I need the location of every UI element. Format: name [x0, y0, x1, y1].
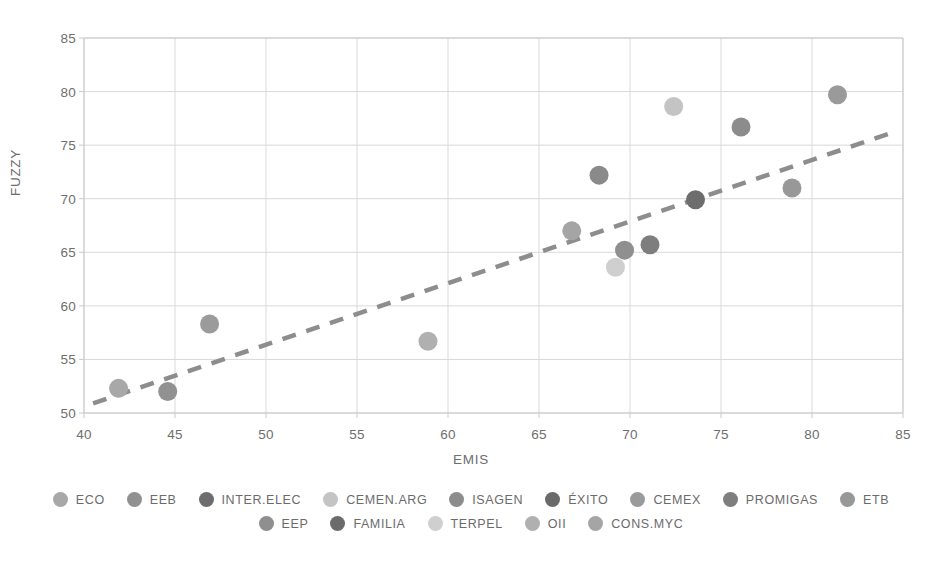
- legend-swatch-circle-icon: [449, 492, 464, 507]
- legend-item-label: OII: [548, 517, 566, 531]
- legend-swatch-circle-icon: [259, 516, 274, 531]
- data-point[interactable]: [109, 379, 128, 398]
- data-point[interactable]: [418, 332, 437, 351]
- legend-item[interactable]: ECO: [53, 492, 105, 507]
- legend-row-1: ECOEEBINTER.ELECCEMEN.ARGISAGENÉXITOCEME…: [0, 492, 942, 507]
- data-point[interactable]: [664, 97, 683, 116]
- legend-item[interactable]: EEB: [127, 492, 177, 507]
- scatter-chart: 505560657075808540455055606570758085 FUZ…: [0, 0, 942, 586]
- legend-item-label: ISAGEN: [472, 493, 523, 507]
- legend-item-label: CEMEN.ARG: [346, 493, 427, 507]
- legend-item-label: CEMEX: [653, 493, 700, 507]
- legend-item-label: FAMILIA: [353, 517, 405, 531]
- x-tick-label: 85: [895, 427, 910, 442]
- data-point[interactable]: [686, 190, 705, 209]
- data-point[interactable]: [158, 382, 177, 401]
- trend-line: [93, 133, 890, 403]
- legend-row-2: EEPFAMILIATERPELOIICONS.MYC: [0, 516, 942, 531]
- y-tick-label: 50: [32, 406, 76, 421]
- x-tick-label: 45: [167, 427, 182, 442]
- legend-item-label: EEP: [282, 517, 309, 531]
- legend-item-label: EEB: [150, 493, 177, 507]
- x-axis-title: EMIS: [0, 452, 942, 467]
- x-tick-label: 70: [622, 427, 637, 442]
- legend-swatch-circle-icon: [127, 492, 142, 507]
- legend-swatch-circle-icon: [323, 492, 338, 507]
- data-point[interactable]: [782, 179, 801, 198]
- data-point[interactable]: [590, 166, 609, 185]
- legend-item-label: PROMIGAS: [746, 493, 818, 507]
- x-tick-label: 40: [76, 427, 91, 442]
- y-tick-label: 75: [32, 138, 76, 153]
- x-tick-label: 65: [531, 427, 546, 442]
- legend-swatch-circle-icon: [330, 516, 345, 531]
- legend-item[interactable]: ISAGEN: [449, 492, 523, 507]
- y-tick-label: 80: [32, 84, 76, 99]
- legend-item[interactable]: INTER.ELEC: [199, 492, 302, 507]
- legend-item[interactable]: ÉXITO: [545, 492, 608, 507]
- data-point[interactable]: [606, 258, 625, 277]
- y-tick-label: 85: [32, 31, 76, 46]
- plot-canvas: [0, 0, 942, 480]
- legend-swatch-circle-icon: [428, 516, 443, 531]
- x-tick-label: 75: [713, 427, 728, 442]
- y-axis-title: FUZZY: [8, 149, 23, 196]
- legend-swatch-circle-icon: [630, 492, 645, 507]
- data-point[interactable]: [732, 117, 751, 136]
- y-tick-label: 65: [32, 245, 76, 260]
- plot-area: 505560657075808540455055606570758085: [0, 0, 942, 480]
- legend-swatch-circle-icon: [53, 492, 68, 507]
- legend-item[interactable]: CEMEN.ARG: [323, 492, 427, 507]
- x-tick-label: 80: [804, 427, 819, 442]
- legend-swatch-circle-icon: [545, 492, 560, 507]
- chart-legend: ECOEEBINTER.ELECCEMEN.ARGISAGENÉXITOCEME…: [0, 492, 942, 540]
- data-point[interactable]: [828, 85, 847, 104]
- data-point[interactable]: [200, 315, 219, 334]
- data-point[interactable]: [615, 241, 634, 260]
- legend-item[interactable]: CONS.MYC: [588, 516, 683, 531]
- y-tick-label: 70: [32, 191, 76, 206]
- legend-item-label: INTER.ELEC: [222, 493, 302, 507]
- legend-item[interactable]: ETB: [840, 492, 889, 507]
- legend-item[interactable]: PROMIGAS: [723, 492, 818, 507]
- x-tick-label: 55: [349, 427, 364, 442]
- data-point[interactable]: [562, 221, 581, 240]
- y-tick-label: 55: [32, 352, 76, 367]
- legend-item[interactable]: FAMILIA: [330, 516, 405, 531]
- legend-item-label: ÉXITO: [568, 493, 608, 507]
- legend-item[interactable]: CEMEX: [630, 492, 700, 507]
- legend-item[interactable]: TERPEL: [428, 516, 503, 531]
- legend-item-label: ECO: [76, 493, 105, 507]
- y-tick-label: 60: [32, 298, 76, 313]
- legend-swatch-circle-icon: [723, 492, 738, 507]
- legend-item-label: CONS.MYC: [611, 517, 683, 531]
- legend-swatch-circle-icon: [525, 516, 540, 531]
- legend-swatch-circle-icon: [840, 492, 855, 507]
- x-tick-label: 50: [258, 427, 273, 442]
- x-tick-label: 60: [440, 427, 455, 442]
- data-point[interactable]: [641, 235, 660, 254]
- legend-item[interactable]: EEP: [259, 516, 309, 531]
- legend-item-label: TERPEL: [451, 517, 503, 531]
- legend-item[interactable]: OII: [525, 516, 566, 531]
- legend-item-label: ETB: [863, 493, 889, 507]
- legend-swatch-circle-icon: [199, 492, 214, 507]
- legend-swatch-circle-icon: [588, 516, 603, 531]
